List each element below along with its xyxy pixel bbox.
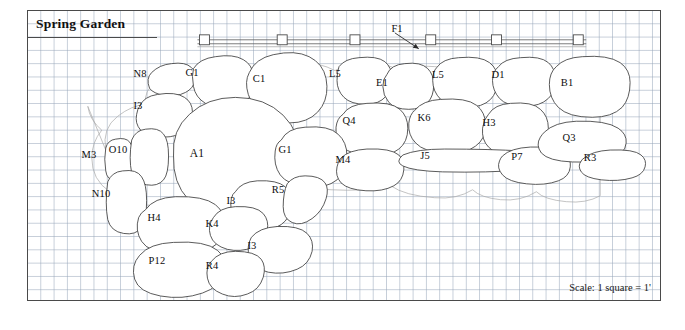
bed-label-B1: B1 (561, 77, 574, 88)
garden-plan-screenshot: Spring Garden (0, 0, 685, 330)
bed-label-R4: R4 (206, 260, 219, 271)
garden-plan-frame: Spring Garden (27, 10, 661, 301)
bed-label-R3: R3 (584, 152, 597, 163)
bed-R4 (207, 251, 264, 296)
bed-label-K6: K6 (417, 112, 430, 123)
bed-label-Q3: Q3 (562, 132, 575, 143)
bed-label-P7: P7 (511, 151, 523, 162)
bed-label-I3-upper: I3 (133, 100, 142, 111)
bed-K6 (409, 99, 486, 153)
bed-label-P12: P12 (149, 255, 166, 266)
bed-label-L5-right: L5 (432, 69, 444, 80)
bed-label-A1: A1 (190, 147, 204, 159)
bed-label-L5-left: L5 (329, 68, 341, 79)
bed-label-E1: E1 (376, 77, 388, 88)
bed-label-G1-lower: G1 (278, 144, 291, 155)
scale-note: Scale: 1 square = 1' (569, 282, 651, 293)
bed-label-O10: O10 (109, 144, 128, 155)
bed-label-M4: M4 (336, 154, 351, 165)
bed-label-N8: N8 (133, 68, 146, 79)
bed-label-H3: H3 (482, 117, 495, 128)
bed-label-Q4: Q4 (342, 115, 355, 126)
bed-label-G1-upper: G1 (185, 67, 198, 78)
bed-label-R5: R5 (272, 184, 285, 195)
fence-label: F1 (391, 23, 402, 34)
bed-D1 (493, 57, 556, 106)
bed-label-H4: H4 (147, 212, 160, 223)
bed-R5 (283, 176, 327, 224)
bed-label-M3: M3 (82, 149, 97, 160)
bed-label-N10: N10 (92, 188, 111, 199)
bed-label-K4: K4 (205, 218, 218, 229)
bed-label-D1: D1 (491, 69, 504, 80)
bed-label-I3-mid: I3 (226, 195, 235, 206)
bed-Q4 (336, 103, 408, 156)
bed-label-C1: C1 (253, 73, 266, 84)
bed-label-I3-lower: I3 (247, 240, 256, 251)
bed-label-J5: J5 (420, 150, 430, 161)
